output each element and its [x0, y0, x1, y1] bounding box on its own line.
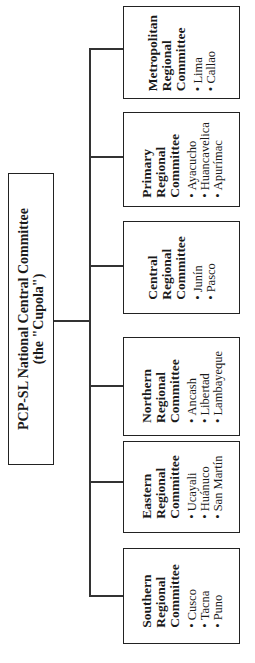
branch-connector-northern	[89, 385, 123, 387]
region-item: Callao	[205, 14, 218, 90]
region-item: Lima	[192, 14, 205, 90]
root-connector	[54, 320, 90, 322]
committee-title: Northern Regional Committee	[139, 350, 181, 422]
branch-connector-primary	[89, 156, 123, 158]
committee-box-northern: Northern Regional Committee Ancash Liber…	[123, 337, 240, 436]
region-item: Lambayeque	[211, 350, 224, 422]
region-item: Pasco	[205, 236, 218, 300]
region-item: Huánuco	[198, 455, 211, 519]
committee-box-eastern: Eastern Regional Committee Ucayali Huánu…	[123, 441, 240, 533]
region-item: Huancavelica	[198, 122, 211, 198]
committee-box-primary: Primary Regional Committee Ayacucho Huan…	[123, 112, 240, 207]
committee-title: Eastern Regional Committee	[139, 455, 181, 519]
committee-box-southern: Southern Regional Committee Cusco Tacna …	[123, 548, 240, 644]
spine-line	[89, 48, 91, 596]
region-item: Cusco	[185, 564, 198, 628]
region-list: Ancash Libertad Lambayeque	[185, 350, 224, 422]
region-item: Apurímac	[211, 122, 224, 198]
committee-box-metropolitan: Metropolitan Regional Committee Lima Cal…	[123, 6, 240, 99]
region-item: Ucayali	[185, 455, 198, 519]
region-item: Junín	[192, 236, 205, 300]
region-list: Junín Pasco	[192, 236, 218, 300]
branch-connector-southern	[89, 595, 123, 597]
root-label: PCP-SL National Central Committee (the "…	[16, 208, 46, 430]
branch-connector-central	[89, 265, 123, 267]
committee-title: Metropolitan Regional Committee	[146, 14, 188, 90]
region-list: Ucayali Huánuco San Martín	[185, 455, 224, 519]
region-item: Ayacucho	[185, 122, 198, 198]
committee-box-central: Central Regional Committee Junín Pasco	[123, 221, 240, 314]
region-list: Ayacucho Huancavelica Apurímac	[185, 122, 224, 198]
region-list: Lima Callao	[192, 14, 218, 90]
root-subtitle: (the "Cupola")	[31, 208, 46, 430]
region-item: Ancash	[185, 350, 198, 422]
branch-connector-metropolitan	[89, 48, 123, 50]
region-list: Cusco Tacna Puno	[185, 564, 224, 628]
region-item: Libertad	[198, 350, 211, 422]
root-committee-box: PCP-SL National Central Committee (the "…	[8, 173, 54, 465]
committee-title: Southern Regional Committee	[139, 564, 181, 628]
region-item: Puno	[211, 564, 224, 628]
root-title: PCP-SL National Central Committee	[16, 208, 31, 430]
region-item: San Martín	[211, 455, 224, 519]
branch-connector-eastern	[89, 481, 123, 483]
region-item: Tacna	[198, 564, 211, 628]
committee-title: Central Regional Committee	[146, 236, 188, 300]
committee-title: Primary Regional Committee	[139, 122, 181, 198]
